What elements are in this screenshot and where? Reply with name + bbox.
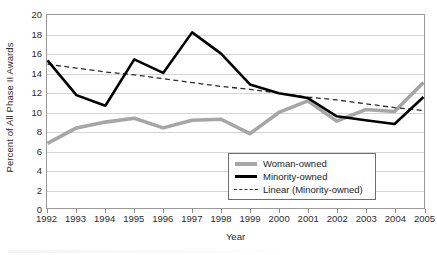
y-tick-label: 14 xyxy=(31,67,42,78)
solid-thick-gray-line-swatch-icon xyxy=(233,162,259,166)
y-tick-label: 20 xyxy=(31,9,42,20)
chart-legend: Woman-owned Minority-owned Linear (Minor… xyxy=(228,153,376,200)
legend-item-woman-owned: Woman-owned xyxy=(233,157,371,170)
legend-label-woman-owned: Woman-owned xyxy=(263,158,327,169)
x-tick-label: 1996 xyxy=(152,213,173,224)
series-line-woman-owned xyxy=(47,83,423,144)
x-tick-label: 2002 xyxy=(327,213,348,224)
page-edge-artifact xyxy=(8,250,308,253)
y-tick-label: 18 xyxy=(31,28,42,39)
y-tick-label: 4 xyxy=(37,165,42,176)
x-tick-label: 1995 xyxy=(123,213,144,224)
dashed-black-line-swatch-icon xyxy=(233,189,259,190)
x-axis-title: Year xyxy=(46,231,425,242)
y-tick-label: 6 xyxy=(37,145,42,156)
x-tick-label: 2000 xyxy=(269,213,290,224)
x-tick-label: 2001 xyxy=(298,213,319,224)
x-tick-label: 1993 xyxy=(65,213,86,224)
legend-item-linear-minority-owned: Linear (Minority-owned) xyxy=(233,183,371,196)
y-tick-label: 2 xyxy=(37,184,42,195)
x-tick-label: 2003 xyxy=(356,213,377,224)
y-axis-title-text: Percent of All Phase II Awards xyxy=(4,42,15,172)
x-tick-label: 1999 xyxy=(239,213,260,224)
series-line-linear-minority-owned xyxy=(47,64,423,110)
x-tick-label: 1997 xyxy=(181,213,202,224)
y-tick-label: 8 xyxy=(37,126,42,137)
chart-figure: Percent of All Phase II Awards 201816141… xyxy=(0,0,437,255)
legend-item-minority-owned: Minority-owned xyxy=(233,170,371,183)
x-tick-label: 1992 xyxy=(36,213,57,224)
y-tick-label: 12 xyxy=(31,87,42,98)
x-tick-label: 2005 xyxy=(414,213,435,224)
y-tick-label: 16 xyxy=(31,48,42,59)
y-tick-label: 10 xyxy=(31,106,42,117)
solid-black-line-swatch-icon xyxy=(233,175,259,178)
x-tick-label: 1994 xyxy=(94,213,115,224)
x-tick-label: 2004 xyxy=(385,213,406,224)
x-axis-tick-labels: 1992199319941995199619971998199920002001… xyxy=(46,213,425,229)
x-tick-label: 1998 xyxy=(210,213,231,224)
legend-label-linear-minority-owned: Linear (Minority-owned) xyxy=(263,184,363,195)
legend-label-minority-owned: Minority-owned xyxy=(263,171,327,182)
